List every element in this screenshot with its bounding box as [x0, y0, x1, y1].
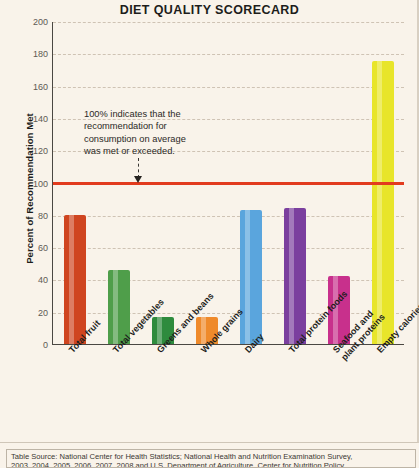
y-tick-100: 100: [14, 179, 48, 189]
arrow-head: [134, 176, 142, 183]
y-tick-60: 60: [14, 243, 48, 253]
bar-total-fruit[interactable]: [64, 215, 86, 344]
reference-line-100: [53, 182, 404, 185]
y-tick-200: 200: [14, 17, 48, 27]
chart-page: DIET QUALITY SCORECARD Percent of Recomm…: [0, 0, 419, 468]
y-tick-80: 80: [14, 211, 48, 221]
chart-card: DIET QUALITY SCORECARD Percent of Recomm…: [0, 0, 419, 443]
gridline-20: [53, 313, 404, 314]
plot-area: [52, 22, 404, 345]
bar-total-protein-foods[interactable]: [284, 208, 306, 344]
gridline-160: [53, 87, 404, 88]
annotation-text: 100% indicates that therecommendation fo…: [84, 108, 246, 158]
gridline-40: [53, 280, 404, 281]
annotation-line: consumption on average: [84, 133, 246, 145]
footnote-line-1: Table Source: National Center for Health…: [11, 452, 411, 461]
gridline-80: [53, 216, 404, 217]
bar-dairy[interactable]: [240, 210, 262, 344]
chart-title: DIET QUALITY SCORECARD: [0, 3, 419, 17]
annotation-arrow-icon: [134, 158, 144, 186]
y-tick-160: 160: [14, 82, 48, 92]
x-axis-category-labels: Total fruitTotal vegetablesGreens and be…: [0, 348, 419, 440]
arrow-stem: [138, 158, 139, 178]
gridline-180: [53, 54, 404, 55]
y-tick-40: 40: [14, 275, 48, 285]
footnote: Table Source: National Center for Health…: [6, 449, 416, 468]
y-tick-180: 180: [14, 49, 48, 59]
gridline-60: [53, 248, 404, 249]
annotation-line: 100% indicates that the: [84, 108, 246, 120]
y-tick-20: 20: [14, 308, 48, 318]
annotation-line: was met or exceeded.: [84, 145, 246, 157]
y-tick-120: 120: [14, 146, 48, 156]
annotation-line: recommendation for: [84, 120, 246, 132]
y-axis-tick-labels: 200180160140120100806040200: [10, 22, 48, 345]
bar-empty-calories[interactable]: [372, 61, 394, 344]
footnote-line-2: 2003, 2004, 2005, 2006, 2007, 2008 and U…: [11, 461, 411, 468]
y-tick-140: 140: [14, 114, 48, 124]
gridline-200: [53, 22, 404, 23]
